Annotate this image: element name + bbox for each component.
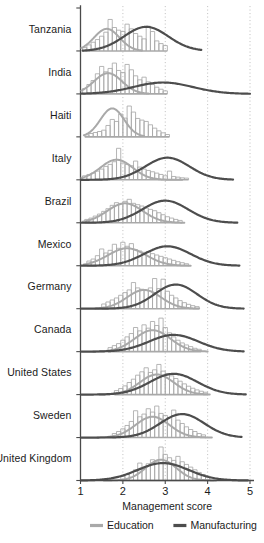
manufacturing-density-curve[interactable]: [81, 335, 243, 352]
panel-haiti[interactable]: [84, 106, 170, 137]
country-label-tanzania[interactable]: Tanzania: [29, 23, 72, 35]
x-tick-label-1[interactable]: 1: [77, 485, 83, 497]
education-histogram[interactable]: [87, 242, 189, 265]
x-tick-label-3[interactable]: 3: [162, 485, 168, 497]
country-label-india[interactable]: India: [48, 66, 71, 78]
panel-india[interactable]: [81, 63, 250, 94]
panel-united-states[interactable]: [81, 364, 245, 394]
panel-canada[interactable]: [81, 318, 243, 352]
country-label-sweden[interactable]: Sweden: [33, 409, 72, 421]
panel-sweden[interactable]: [81, 406, 241, 438]
country-label-canada[interactable]: Canada: [34, 323, 71, 335]
panel-italy[interactable]: [81, 148, 233, 180]
x-tick-label-2[interactable]: 2: [120, 485, 126, 497]
x-tick-label-4[interactable]: 4: [205, 485, 211, 497]
manufacturing-density-curve[interactable]: [81, 83, 250, 94]
country-label-united-states[interactable]: United States: [7, 366, 71, 378]
manufacturing-density-curve[interactable]: [81, 463, 248, 480]
x-tick-label-5[interactable]: 5: [247, 485, 253, 497]
legend-education-label[interactable]: Education: [107, 519, 154, 531]
education-density-curve[interactable]: [100, 374, 210, 394]
country-label-germany[interactable]: Germany: [28, 280, 73, 292]
country-label-mexico[interactable]: Mexico: [38, 238, 72, 250]
education-histogram[interactable]: [112, 406, 205, 438]
panel-mexico[interactable]: [81, 242, 239, 265]
chart-canvas: TanzaniaIndiaHaitiItalyBrazilMexicoGerma…: [0, 0, 264, 543]
country-label-united-kingdom[interactable]: United Kingdom: [0, 452, 72, 464]
x-axis-title[interactable]: Management score: [122, 500, 212, 512]
panel-brazil[interactable]: [81, 199, 237, 222]
x-axis-tick-labels[interactable]: 12345: [77, 481, 253, 497]
legend-manufacturing-label[interactable]: Manufacturing: [190, 519, 257, 531]
panel-united-kingdom[interactable]: [81, 447, 248, 481]
education-histogram[interactable]: [83, 148, 189, 180]
education-histogram[interactable]: [85, 106, 170, 137]
country-label-haiti[interactable]: Haiti: [50, 109, 72, 121]
education-histogram[interactable]: [85, 199, 182, 222]
manufacturing-density-curve[interactable]: [81, 414, 241, 437]
panel-germany[interactable]: [81, 279, 243, 309]
country-label-brazil[interactable]: Brazil: [45, 195, 72, 207]
panel-tanzania[interactable]: [81, 19, 201, 50]
chart-legend[interactable]: EducationManufacturing: [90, 519, 257, 531]
ridgeline-chart-figure: TanzaniaIndiaHaitiItalyBrazilMexicoGerma…: [0, 0, 264, 543]
country-label-italy[interactable]: Italy: [52, 152, 72, 164]
